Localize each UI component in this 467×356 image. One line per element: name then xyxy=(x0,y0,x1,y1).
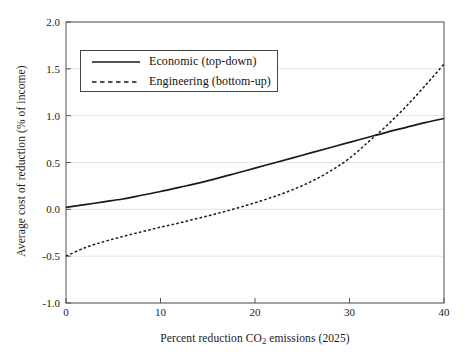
x-tick-label: 20 xyxy=(235,306,275,318)
legend-item-engineering: Engineering (bottom-up) xyxy=(81,71,277,92)
x-axis-title: Percent reduction CO2 emissions (2025) xyxy=(66,332,444,346)
x-tick-label: 30 xyxy=(330,306,370,318)
chart-legend: Economic (top-down) Engineering (bottom-… xyxy=(80,50,278,92)
chart-figure: 2.01.51.00.50.0-0.5-1.0 010203040 Averag… xyxy=(0,0,467,356)
x-axis-title-suffix: emissions (2025) xyxy=(266,332,349,344)
y-tick-label: 2.0 xyxy=(26,16,60,28)
y-axis-tick-labels: 2.01.51.00.50.0-0.5-1.0 xyxy=(26,0,60,356)
legend-label-economic: Economic (top-down) xyxy=(149,54,257,69)
x-tick-label: 40 xyxy=(424,306,464,318)
x-tick-label: 10 xyxy=(141,306,181,318)
legend-item-economic: Economic (top-down) xyxy=(81,51,277,72)
y-tick-label: 0.0 xyxy=(26,203,60,215)
x-axis-title-prefix: Percent reduction CO xyxy=(160,332,262,344)
legend-swatch-dashed-line xyxy=(90,75,142,89)
legend-swatch-solid-line xyxy=(90,55,142,69)
y-tick-label: -0.5 xyxy=(26,250,60,262)
y-tick-label: 1.0 xyxy=(26,110,60,122)
x-tick-label: 0 xyxy=(46,306,86,318)
y-tick-label: 1.5 xyxy=(26,63,60,75)
y-axis-title: Average cost of reduction (% of income) xyxy=(15,21,27,301)
y-tick-label: 0.5 xyxy=(26,157,60,169)
legend-label-engineering: Engineering (bottom-up) xyxy=(149,74,271,89)
